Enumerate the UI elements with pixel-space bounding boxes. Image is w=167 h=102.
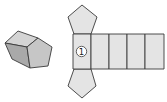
net-face-2 bbox=[91, 34, 109, 69]
net-face-4 bbox=[127, 34, 145, 69]
net-top-pentagon bbox=[68, 5, 97, 34]
net-face-5 bbox=[145, 34, 164, 69]
face-marker-label: 1 bbox=[77, 46, 87, 58]
prism-side-face bbox=[5, 43, 30, 68]
net-bottom-pentagon bbox=[68, 69, 96, 98]
pentagonal-prism bbox=[5, 31, 52, 68]
net-face-3 bbox=[109, 34, 127, 69]
